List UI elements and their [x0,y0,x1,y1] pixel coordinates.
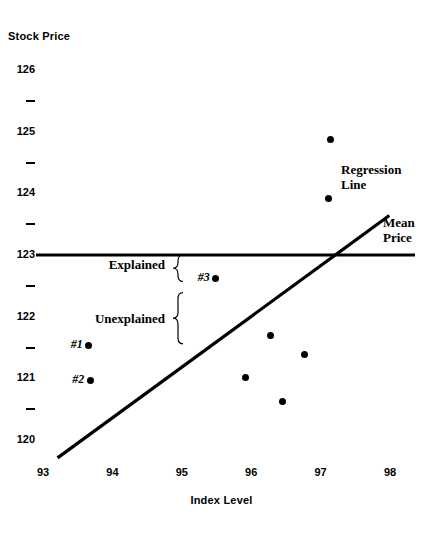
mean-price-label: Mean Price [383,216,415,245]
regression-line [58,216,390,458]
regression-line-label: Regression Line [341,163,401,192]
data-point [87,377,94,384]
data-point-label: #3 [170,270,210,285]
explained-annotation-label: Explained [45,257,165,273]
data-point-label: #1 [43,337,83,352]
unexplained-brace [173,293,183,344]
mean-price-label-text-2: Price [383,231,415,246]
data-point [85,342,92,349]
scatter-chart: Stock Price Index Level 1201211221231241… [0,0,443,539]
data-point [267,332,274,339]
mean-price-label-text-1: Mean [383,216,415,231]
regression-line-label-text-1: Regression [341,163,401,178]
unexplained-annotation-label: Unexplained [45,311,165,327]
data-point [327,136,334,143]
regression-line-label-text-2: Line [341,178,401,193]
data-point-label: #2 [44,372,84,387]
